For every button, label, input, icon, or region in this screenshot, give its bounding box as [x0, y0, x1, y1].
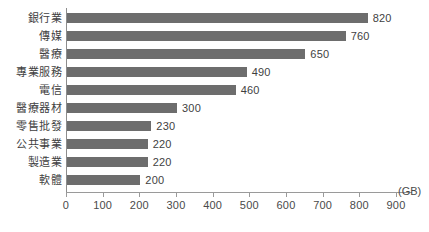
- bar-value-label: 300: [182, 102, 201, 114]
- bar: [67, 49, 305, 59]
- x-axis-tick-label: 400: [203, 199, 222, 211]
- x-axis-tick: [213, 193, 214, 197]
- x-axis-tick: [139, 193, 140, 197]
- x-axis-tick: [249, 193, 250, 197]
- category-label: 銀行業: [28, 12, 63, 24]
- bar-value-label: 760: [351, 30, 370, 42]
- bar: [67, 103, 177, 113]
- bar: [67, 85, 236, 95]
- x-axis-tick-label: 900: [387, 199, 406, 211]
- x-axis-tick-label: 200: [130, 199, 149, 211]
- x-axis-unit-label: (GB): [398, 185, 421, 197]
- x-axis-tick-label: 300: [167, 199, 186, 211]
- x-axis-tick: [359, 193, 360, 197]
- x-axis-tick: [176, 193, 177, 197]
- x-axis-tick-label: 100: [93, 199, 112, 211]
- category-label: 專業服務: [16, 66, 62, 78]
- x-axis-line: [66, 192, 396, 193]
- bar: [67, 31, 346, 41]
- category-label: 電信: [39, 84, 62, 96]
- bar-value-label: 460: [241, 84, 260, 96]
- category-label: 製造業: [28, 156, 63, 168]
- bar-value-label: 230: [156, 120, 175, 132]
- x-axis-tick: [103, 193, 104, 197]
- x-axis-tick: [323, 193, 324, 197]
- bar-chart: 銀行業傳媒醫療專業服務電信醫療器材零售批發公共事業製造業軟體 820760650…: [0, 0, 429, 232]
- x-axis-tick: [396, 193, 397, 197]
- x-axis-tick-label: 600: [277, 199, 296, 211]
- bar: [67, 67, 247, 77]
- x-axis-tick: [66, 193, 67, 197]
- category-label: 零售批發: [16, 120, 62, 132]
- category-label: 醫療器材: [16, 102, 62, 114]
- category-label: 傳媒: [39, 30, 62, 42]
- bar: [67, 157, 148, 167]
- x-axis-tick-label: 700: [313, 199, 332, 211]
- bar-value-label: 650: [310, 48, 329, 60]
- x-axis-tick-label: 500: [240, 199, 259, 211]
- bar: [67, 121, 151, 131]
- bar: [67, 139, 148, 149]
- x-axis-tick-label: 0: [63, 199, 69, 211]
- category-label: 公共事業: [16, 138, 62, 150]
- x-axis-tick: [286, 193, 287, 197]
- category-label: 軟體: [39, 174, 62, 186]
- bar-value-label: 220: [153, 138, 172, 150]
- bar-value-label: 200: [145, 174, 164, 186]
- bar-value-label: 490: [252, 66, 271, 78]
- bar: [67, 13, 368, 23]
- category-label: 醫療: [39, 48, 62, 60]
- bar-value-label: 220: [153, 156, 172, 168]
- bar-value-label: 820: [373, 12, 392, 24]
- bar: [67, 175, 140, 185]
- x-axis-tick-label: 800: [350, 199, 369, 211]
